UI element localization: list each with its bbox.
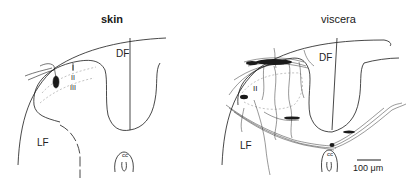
panel-skin: skin DF LF [0,0,205,185]
label-lamina-2-viscera: II [253,84,257,93]
label-lamina-3: III [70,84,76,91]
label-lf-skin: LF [37,137,49,148]
label-cc-skin: cc [122,152,128,158]
label-lamina-2: II [71,74,75,81]
label-df-skin: DF [116,48,129,59]
neuron-skin [25,64,59,88]
label-lf-viscera: LF [240,140,252,151]
label-lamina-1: I [72,64,74,71]
spinal-cord-drawing-viscera [204,0,409,185]
spinal-cord-drawing-skin [0,0,205,185]
label-df-viscera: DF [319,52,332,63]
label-cc-viscera: cc [327,151,333,157]
panel-viscera: viscera [204,0,409,185]
scale-bar-label: 100 μm [353,163,383,173]
